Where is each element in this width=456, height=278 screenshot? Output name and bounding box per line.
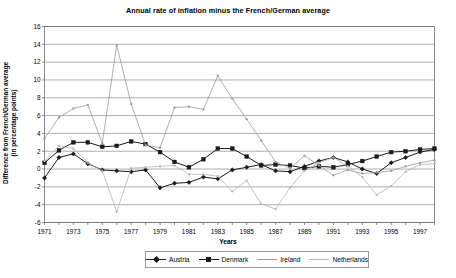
- legend-swatch-icon: [199, 255, 219, 264]
- y-axis-tick-label: 8: [37, 94, 41, 101]
- y-axis-tick-label: 10: [33, 76, 41, 83]
- legend-swatch-icon: [309, 255, 329, 264]
- x-axis-tick-label: 1981: [182, 228, 197, 235]
- y-axis-tick-label: -2: [35, 183, 41, 190]
- x-axis-tick-label: 1973: [66, 228, 81, 235]
- y-axis-tick-label: -6: [35, 219, 41, 226]
- legend-swatch-icon: [146, 255, 166, 264]
- y-axis-tick-label: 4: [37, 130, 41, 137]
- chart-legend: AustriaDenmarkIrelandNetherlands: [145, 251, 369, 268]
- y-axis-tick-label: -4: [35, 201, 41, 208]
- x-axis-tick-label: 1971: [37, 228, 52, 235]
- legend-item-austria[interactable]: Austria: [146, 255, 190, 264]
- x-axis-title: Years: [0, 238, 456, 245]
- legend-label: Netherlands: [332, 256, 368, 263]
- y-axis-tick-label: 0: [37, 165, 41, 172]
- x-axis-tick-label: 1993: [355, 228, 370, 235]
- legend-label: Ireland: [280, 256, 300, 263]
- y-axis-tick-label: 12: [33, 58, 41, 65]
- x-axis-tick-label: 1985: [240, 228, 255, 235]
- legend-item-ireland[interactable]: Ireland: [257, 255, 300, 264]
- legend-item-netherlands[interactable]: Netherlands: [309, 255, 368, 264]
- x-axis-tick-label: 1995: [384, 228, 399, 235]
- legend-label: Austria: [169, 256, 190, 263]
- x-axis-tick-label: 1991: [326, 228, 341, 235]
- x-axis-tick-label: 1977: [124, 228, 139, 235]
- legend-label: Denmark: [222, 256, 249, 263]
- legend-item-denmark[interactable]: Denmark: [199, 255, 249, 264]
- x-axis-tick-label: 1989: [297, 228, 312, 235]
- x-axis-tick-label: 1975: [95, 228, 110, 235]
- y-axis-tick-label: 16: [33, 23, 41, 30]
- x-axis-tick-label: 1983: [211, 228, 226, 235]
- x-axis-tick-label: 1987: [269, 228, 284, 235]
- legend-swatch-icon: [257, 255, 277, 264]
- x-axis-tick-label: 1979: [153, 228, 168, 235]
- y-axis-tick-label: 2: [37, 148, 41, 155]
- y-axis-tick-label: 14: [33, 41, 41, 48]
- x-axis-tick-label: 1997: [413, 228, 428, 235]
- chart-container: Annual rate of inflation minus the Frenc…: [0, 0, 456, 278]
- y-axis-tick-label: 6: [37, 112, 41, 119]
- chart-plot-area: 1614121086420-2-4-6197119731975197719791…: [0, 0, 456, 278]
